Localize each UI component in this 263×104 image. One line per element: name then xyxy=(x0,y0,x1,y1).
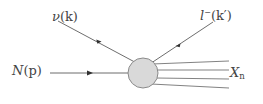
label-hadronic-final-state: Xn xyxy=(230,66,245,79)
neutrino-momentum: (k) xyxy=(60,9,78,24)
lepton-charge: − xyxy=(204,8,211,17)
label-incoming-neutrino: ν(k) xyxy=(52,10,78,23)
hadron-line-3 xyxy=(156,78,229,79)
hadron-line-1 xyxy=(152,61,229,64)
outgoing-lepton-line xyxy=(151,22,214,64)
interaction-vertex-blob xyxy=(128,58,158,88)
lepton-momentum: (k′) xyxy=(211,8,232,23)
lepton-line-segment xyxy=(151,22,214,64)
label-outgoing-lepton: l−(k′) xyxy=(200,9,232,22)
label-incoming-nucleon: N(p) xyxy=(12,64,42,77)
nucleon-arrowhead-icon xyxy=(87,71,93,76)
nucleon-symbol: N xyxy=(12,63,23,78)
neutrino-symbol: ν xyxy=(52,9,60,24)
incoming-nucleon-line xyxy=(50,71,129,76)
incoming-neutrino-line xyxy=(58,21,138,64)
hadronic-final-state-lines xyxy=(151,61,229,88)
nucleon-momentum: (p) xyxy=(23,63,41,78)
hadron-line-4 xyxy=(151,84,229,88)
hadronic-symbol: X xyxy=(230,65,239,80)
hadronic-subscript: n xyxy=(239,71,245,81)
feynman-diagram: ν(k) l−(k′) N(p) Xn xyxy=(0,0,263,104)
